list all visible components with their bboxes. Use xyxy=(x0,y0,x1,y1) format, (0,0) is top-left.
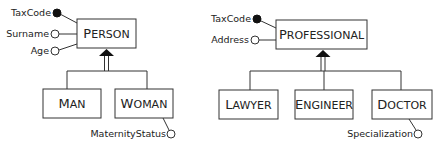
attr-taxcode: TaxCode xyxy=(10,7,51,18)
attribute-icon xyxy=(167,130,175,138)
entity-doctor-label: DOCTOR xyxy=(377,97,427,112)
entity-professional-label: PROFESSIONAL xyxy=(279,27,365,42)
attr-link-age xyxy=(59,44,77,50)
attribute-icon xyxy=(51,47,59,55)
attr-specialization: Specialization xyxy=(347,128,413,139)
attribute-icon xyxy=(51,30,59,38)
generalization-arrow-icon xyxy=(99,49,114,56)
hierarchy-professional: TaxCode Address PROFESSIONAL LAWYER ENGI… xyxy=(210,13,432,139)
generalization-arrow-icon xyxy=(316,50,331,57)
attr-surname: Surname xyxy=(6,28,49,39)
attr-age: Age xyxy=(31,45,50,56)
entity-lawyer-label: LAWYER xyxy=(225,97,272,112)
attr-maternitystatus: MaternityStatus xyxy=(90,128,166,139)
entity-woman-label: WOMAN xyxy=(121,96,168,111)
identifier-attribute-icon xyxy=(53,9,61,17)
attr-address: Address xyxy=(211,34,249,45)
attr-link-taxcode xyxy=(60,14,77,23)
attr-link-taxcode xyxy=(259,20,276,28)
er-diagram: TaxCode Surname Age PERSON MAN WOMAN Mat… xyxy=(0,0,444,148)
entity-engineer-label: ENGINEER xyxy=(295,97,353,112)
attribute-icon xyxy=(251,36,259,44)
attr-taxcode: TaxCode xyxy=(210,13,251,24)
attribute-icon xyxy=(414,130,422,138)
entity-person-label: PERSON xyxy=(83,26,129,41)
hierarchy-person: TaxCode Surname Age PERSON MAN WOMAN Mat… xyxy=(6,7,175,139)
entity-man-label: MAN xyxy=(59,96,86,111)
identifier-attribute-icon xyxy=(253,15,261,23)
